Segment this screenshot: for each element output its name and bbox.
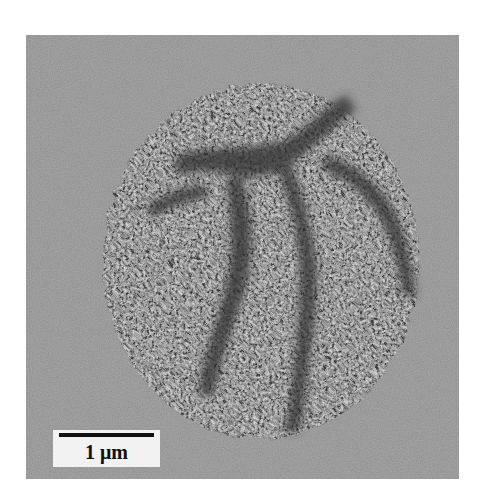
- micrograph-image: [26, 35, 459, 479]
- scale-bar-box: 1 μm: [53, 430, 160, 467]
- micrograph-frame: 1 μm: [26, 35, 459, 479]
- scale-bar-line: [59, 433, 154, 437]
- scale-bar-label: 1 μm: [53, 441, 160, 463]
